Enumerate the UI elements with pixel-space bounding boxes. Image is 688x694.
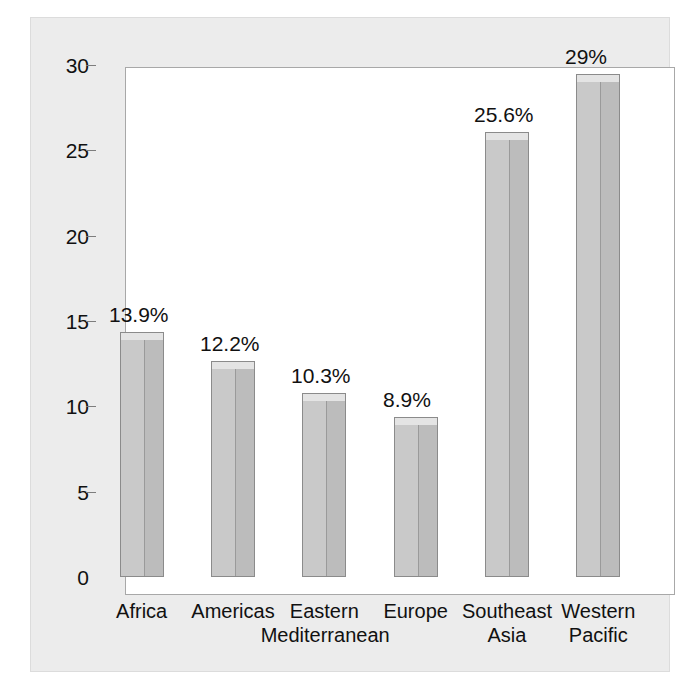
y-axis-tick-label: 30 (45, 55, 89, 76)
bar-body (485, 140, 529, 577)
bar-body (120, 340, 164, 577)
bar-value-label: 8.9% (383, 389, 431, 410)
bar-body (394, 425, 438, 577)
y-axis-tick-label: 5 (45, 481, 89, 502)
y-axis-tick-mark (86, 236, 96, 237)
bar-side-face (601, 82, 619, 576)
y-axis-tick-mark (86, 406, 96, 407)
bar-front-face (395, 425, 419, 576)
y-axis-tick-mark (86, 150, 96, 151)
bar[interactable] (394, 417, 438, 577)
bar-side-face (327, 401, 345, 576)
bar-value-label: 10.3% (291, 365, 351, 386)
bar-front-face (486, 140, 510, 576)
bar-side-face (145, 340, 163, 576)
bar[interactable] (576, 74, 620, 577)
bar[interactable] (302, 393, 346, 577)
bar-value-label: 29% (565, 46, 607, 67)
bar[interactable] (120, 332, 164, 577)
bar-value-label: 25.6% (474, 104, 534, 125)
bar-front-face (577, 82, 601, 576)
bar-front-face (303, 401, 327, 576)
y-axis-tick-mark (86, 65, 96, 66)
figure: 051015202530 13.9%Africa12.2%Americas10.… (0, 0, 688, 694)
y-axis-tick-label: 15 (45, 311, 89, 332)
y-axis-tick-mark (86, 321, 96, 322)
bar-value-label: 13.9% (109, 304, 169, 325)
bar-side-face (236, 369, 254, 576)
bar-body (211, 369, 255, 577)
bar-value-label: 12.2% (200, 333, 260, 354)
bar-body (302, 401, 346, 577)
x-axis-category-label: Western Pacific (535, 600, 662, 647)
bar-front-face (212, 369, 236, 576)
y-axis-tick-label: 0 (45, 567, 89, 588)
bar-side-face (510, 140, 528, 576)
bar[interactable] (485, 132, 529, 577)
y-axis: 051015202530 (33, 0, 89, 694)
bar[interactable] (211, 361, 255, 577)
bar-body (576, 82, 620, 577)
y-axis-tick-label: 10 (45, 396, 89, 417)
bar-front-face (121, 340, 145, 576)
y-axis-tick-label: 20 (45, 225, 89, 246)
y-axis-tick-label: 25 (45, 140, 89, 161)
bar-side-face (419, 425, 437, 576)
y-axis-tick-mark (86, 492, 96, 493)
